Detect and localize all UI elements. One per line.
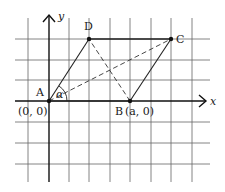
angle-alpha-label: α bbox=[56, 88, 64, 101]
coordinate-diagram: x y α A (0, 0) B (a, 0) C D bbox=[0, 0, 225, 192]
point-A-coord-label: (0, 0) bbox=[18, 105, 48, 118]
point-C-label: C bbox=[176, 33, 184, 46]
point-B bbox=[128, 99, 132, 103]
x-axis-label: x bbox=[210, 95, 217, 108]
point-B-coord-label: (a, 0) bbox=[125, 105, 154, 118]
edge-BC bbox=[130, 39, 171, 101]
point-D bbox=[87, 37, 91, 41]
point-D-label: D bbox=[84, 20, 93, 33]
point-C bbox=[169, 37, 173, 41]
point-B-label: B bbox=[115, 105, 123, 118]
y-axis-label: y bbox=[57, 10, 65, 23]
point-A-label: A bbox=[35, 86, 45, 99]
point-A bbox=[47, 99, 51, 103]
